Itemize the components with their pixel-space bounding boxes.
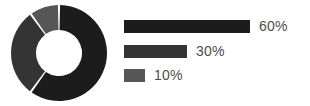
- donut-chart-graphic: [11, 5, 107, 101]
- legend-label-30: 30%: [196, 44, 225, 58]
- donut-svg: [11, 5, 107, 101]
- chart-legend: 60% 30% 10%: [124, 17, 310, 89]
- donut-slice-group: [11, 5, 107, 101]
- legend-item-30: 30%: [124, 44, 225, 58]
- legend-swatch-30: [124, 45, 187, 58]
- donut-chart-figure: 60% 30% 10%: [0, 0, 310, 106]
- legend-label-10: 10%: [154, 68, 183, 82]
- legend-label-60: 60%: [259, 19, 288, 33]
- legend-item-60: 60%: [124, 19, 288, 33]
- legend-swatch-10: [124, 69, 145, 82]
- legend-item-10: 10%: [124, 68, 183, 82]
- donut-slice-30: [11, 15, 45, 91]
- legend-swatch-60: [124, 20, 250, 33]
